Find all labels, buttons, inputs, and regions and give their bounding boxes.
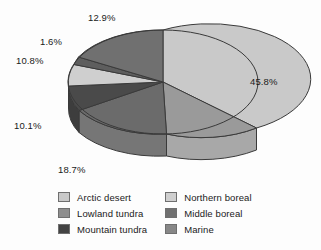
legend-label-mountain-tundra: Mountain tundra (77, 224, 147, 235)
pct-label-marine: 1.6% (40, 36, 62, 47)
pct-label-lowland-tundra: 18.7% (58, 164, 85, 175)
legend-swatch-icon-lowland-tundra (58, 208, 70, 218)
legend-column-left: Arctic desert Lowland tundra Mountain tu… (58, 190, 147, 236)
legend-label-lowland-tundra: Lowland tundra (77, 208, 143, 219)
pct-label-arctic-desert: 45.8% (250, 76, 277, 87)
legend-item-marine[interactable]: Marine (165, 222, 252, 236)
legend-item-middle-boreal[interactable]: Middle boreal (165, 206, 252, 220)
legend-item-northern-boreal[interactable]: Northern boreal (165, 190, 252, 204)
pie-chart-figure: 45.8% 18.7% 10.1% 10.8% 1.6% 12.9% Arcti… (0, 0, 321, 250)
legend-swatch-icon-middle-boreal (165, 208, 177, 218)
chart-plot-area: 45.8% 18.7% 10.1% 10.8% 1.6% 12.9% (0, 0, 321, 185)
legend-item-mountain-tundra[interactable]: Mountain tundra (58, 222, 147, 236)
pct-label-mountain-tundra: 10.1% (14, 120, 41, 131)
pct-label-northern-boreal: 10.8% (16, 55, 43, 66)
legend-label-northern-boreal: Northern boreal (184, 192, 252, 203)
pct-label-middle-boreal: 12.9% (88, 12, 115, 23)
legend-swatch-icon-arctic-desert (58, 192, 70, 202)
legend-swatch-icon-marine (165, 224, 177, 234)
legend-swatch-icon-mountain-tundra (58, 224, 70, 234)
chart-legend: Arctic desert Lowland tundra Mountain tu… (58, 190, 308, 236)
legend-item-lowland-tundra[interactable]: Lowland tundra (58, 206, 147, 220)
legend-label-marine: Marine (184, 224, 214, 235)
legend-label-middle-boreal: Middle boreal (184, 208, 242, 219)
legend-label-arctic-desert: Arctic desert (77, 192, 131, 203)
pie-chart-graphic (0, 0, 321, 185)
legend-item-arctic-desert[interactable]: Arctic desert (58, 190, 147, 204)
legend-column-right: Northern boreal Middle boreal Marine (165, 190, 252, 236)
legend-swatch-icon-northern-boreal (165, 192, 177, 202)
